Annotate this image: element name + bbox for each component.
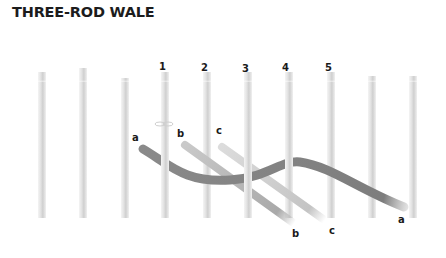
- rod-10: [409, 76, 417, 218]
- rod-2: [79, 68, 87, 218]
- weaver-a-start-label: a: [132, 132, 139, 143]
- rod-6-over: [244, 160, 252, 190]
- rod-8: [327, 72, 335, 218]
- weaver-a-end-label: a: [398, 214, 405, 225]
- rod-1: [38, 72, 46, 218]
- weaver-a: [143, 149, 404, 207]
- weaver-b-start-label: b: [177, 128, 184, 139]
- rod-6: [244, 72, 252, 218]
- rods-back: [38, 68, 417, 218]
- rod-4-over: [161, 150, 169, 190]
- three-rod-wale-diagram: 1 2 3 4 5 a b c b c a: [0, 0, 446, 258]
- rod-label-4: 4: [282, 62, 289, 73]
- weaver-c-end-label: c: [329, 225, 335, 236]
- rod-label-2: 2: [201, 62, 208, 73]
- rod-label-3: 3: [242, 63, 249, 74]
- weaver-b-end-label: b: [292, 228, 299, 239]
- rod-label-5: 5: [325, 62, 332, 73]
- rod-4: [161, 72, 169, 218]
- rod-5: [203, 72, 211, 218]
- rod-3: [121, 78, 129, 218]
- rod-label-1: 1: [159, 61, 166, 72]
- weaver-c-start-label: c: [216, 125, 222, 136]
- rod-7-over: [285, 150, 293, 180]
